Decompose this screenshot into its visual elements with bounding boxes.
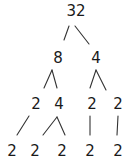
tree-node-l4: 2 (85, 144, 95, 159)
tree-edge (52, 70, 57, 88)
tree-edge (43, 117, 57, 135)
tree-edge (17, 116, 29, 135)
tree-node-n2b: 2 (87, 97, 97, 112)
factor-tree-diagram: 3284242222222 (0, 0, 133, 165)
tree-node-l5: 2 (113, 144, 123, 159)
tree-node-n32: 32 (66, 4, 85, 19)
tree-node-l2: 2 (30, 144, 40, 159)
tree-node-n2c: 2 (113, 97, 123, 112)
tree-edge (96, 70, 106, 90)
tree-edge (75, 26, 89, 44)
tree-node-l1: 2 (7, 144, 17, 159)
tree-edges (0, 0, 133, 165)
tree-edge (90, 70, 96, 88)
tree-edge (44, 70, 52, 88)
tree-node-n4a: 4 (91, 51, 101, 66)
tree-node-l3: 2 (57, 144, 67, 159)
tree-node-n4b: 4 (54, 97, 64, 112)
tree-edge (117, 116, 118, 135)
tree-node-n2a: 2 (31, 97, 41, 112)
tree-node-n8: 8 (53, 51, 63, 66)
tree-edge (57, 117, 65, 135)
tree-edge (64, 26, 69, 40)
